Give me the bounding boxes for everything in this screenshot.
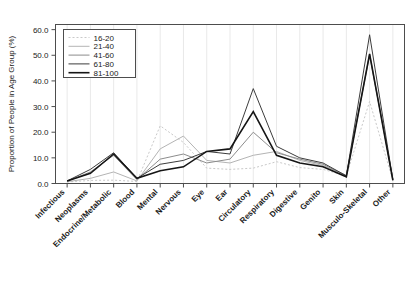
y-tick-label: 10.0 (33, 154, 49, 163)
x-category-label: Genito (298, 187, 322, 211)
y-tick-label: 40.0 (33, 77, 49, 86)
y-tick-label: 60.0 (33, 26, 49, 35)
y-axis-label-text: Proportion of People in Age Group (%) (7, 35, 16, 172)
legend-label-61-80: 61-80 (94, 60, 115, 69)
y-tick-label: 0.0 (37, 180, 49, 189)
legend-label-21-40: 21-40 (94, 42, 115, 51)
x-category-label: Skin (327, 187, 345, 205)
legend-label-41-60: 41-60 (94, 51, 115, 60)
x-category-label: Eye (190, 187, 207, 204)
y-axis-title: Proportion of People in Age Group (%) (7, 35, 16, 172)
y-tick-label: 20.0 (33, 128, 49, 137)
chart-legend: 16-2021-4041-6061-8081-100 (64, 30, 136, 78)
legend-label-16-20: 16-20 (94, 34, 115, 43)
x-category-label: Other (371, 188, 392, 209)
age-group-proportion-line-chart: 0.010.020.030.040.050.060.0 Proportion o… (0, 0, 419, 284)
y-tick-label: 50.0 (33, 51, 49, 60)
x-axis-category-labels: InfectiousNeoplasmsEndocrine/MetabolicBl… (33, 187, 392, 249)
legend-label-81-100: 81-100 (94, 69, 119, 78)
x-category-label: Blood (114, 187, 136, 209)
x-category-label: Ear (214, 188, 229, 203)
chart-container: 0.010.020.030.040.050.060.0 Proportion o… (0, 0, 419, 284)
y-tick-label: 30.0 (33, 103, 49, 112)
x-category-label: Nervous (154, 187, 183, 216)
